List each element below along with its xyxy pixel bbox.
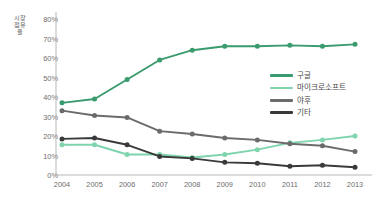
legend-label: 야후: [297, 96, 311, 105]
x-tick-label: 2008: [184, 180, 200, 189]
legend-label: 마이크로소프트: [297, 83, 346, 92]
legend-label: 기타: [297, 108, 311, 117]
x-tick-label: 2010: [249, 180, 265, 189]
x-tick-label: 2011: [282, 180, 298, 189]
legend-swatch-icon: [270, 87, 293, 90]
x-tick-label: 2009: [217, 180, 233, 189]
legend-item[interactable]: 마이크로소프트: [270, 83, 346, 92]
x-tick-label: 2004: [54, 180, 70, 189]
legend-item[interactable]: 구글: [270, 71, 346, 80]
chart-legend: 구글마이크로소프트야후기타: [270, 71, 346, 117]
legend-swatch-icon: [270, 111, 293, 114]
legend-swatch-icon: [270, 99, 293, 102]
legend-label: 구글: [297, 71, 311, 80]
market-share-line-chart: 시장점유율 0%10%20%30%40%50%60%70%80% 2004200…: [0, 0, 382, 206]
x-tick-label: 2013: [347, 180, 363, 189]
legend-item[interactable]: 기타: [270, 108, 346, 117]
legend-swatch-icon: [270, 74, 293, 77]
x-tick-label: 2005: [86, 180, 102, 189]
x-tick-label: 2007: [151, 180, 167, 189]
x-tick-label: 2012: [314, 180, 330, 189]
x-tick-label: 2006: [119, 180, 135, 189]
legend-item[interactable]: 야후: [270, 96, 346, 105]
